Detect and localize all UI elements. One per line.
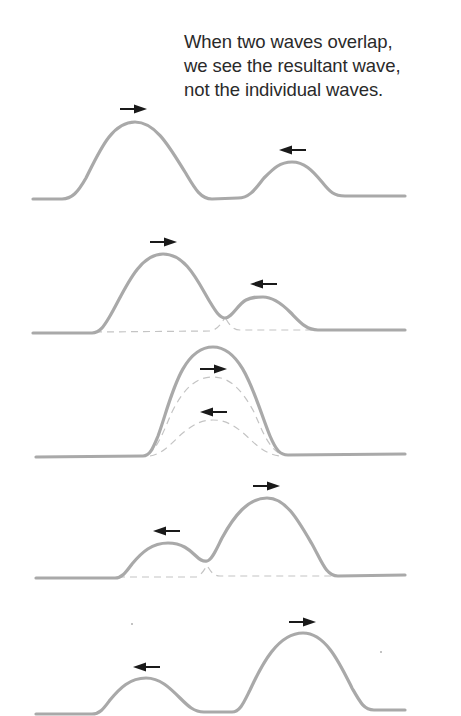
frame-4	[36, 482, 405, 579]
speck	[131, 623, 133, 625]
resultant-wave	[33, 254, 405, 333]
individual-pulse-dashed-small	[150, 420, 280, 456]
individual-pulse-dashed	[95, 319, 224, 332]
arrow-left-icon	[133, 663, 160, 672]
arrow-left-icon	[250, 280, 277, 289]
frame-3	[36, 347, 405, 457]
resultant-wave	[36, 347, 405, 457]
resultant-wave	[36, 633, 405, 714]
frame-5	[36, 618, 405, 715]
arrow-right-icon	[120, 105, 147, 114]
resultant-wave	[33, 122, 405, 199]
arrow-right-icon	[200, 365, 227, 374]
speck	[380, 651, 382, 653]
individual-pulse-dashed	[208, 567, 336, 576]
arrow-right-icon	[253, 482, 280, 491]
arrow-right-icon	[289, 618, 316, 627]
frame-2	[33, 238, 405, 334]
resultant-wave	[36, 498, 405, 578]
arrow-right-icon	[150, 238, 177, 247]
wave-superposition-diagram	[0, 0, 461, 716]
arrow-left-icon	[279, 146, 306, 155]
individual-pulse-dashed	[118, 567, 206, 577]
arrow-left-icon	[153, 527, 180, 536]
frame-1	[33, 105, 405, 200]
arrow-left-icon	[200, 408, 227, 417]
